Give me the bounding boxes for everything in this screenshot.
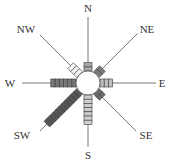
bar-segment xyxy=(84,108,92,112)
bar-segment xyxy=(51,79,55,87)
bar-segment xyxy=(68,79,72,87)
direction-line-ne xyxy=(96,34,137,75)
bar-segment xyxy=(104,79,108,87)
label-se: SE xyxy=(140,129,153,141)
bar-e xyxy=(100,79,113,87)
bar-w xyxy=(51,79,76,87)
bar-segment xyxy=(84,116,92,120)
center-circle xyxy=(76,71,100,95)
bar-segment xyxy=(108,79,112,87)
bar-segment xyxy=(84,63,92,67)
label-nw: NW xyxy=(17,23,36,35)
bar-segment xyxy=(84,95,92,99)
bar-n xyxy=(84,63,92,71)
bar-segment xyxy=(84,112,92,116)
label-n: N xyxy=(84,2,92,14)
bar-segment xyxy=(84,120,92,124)
bar-s xyxy=(84,95,92,124)
label-w: W xyxy=(5,77,16,89)
bar-sw xyxy=(44,89,82,127)
bar-segment xyxy=(100,79,104,87)
bar-segment xyxy=(55,79,59,87)
label-sw: SW xyxy=(14,129,31,141)
bar-segment xyxy=(59,79,63,87)
label-ne: NE xyxy=(140,23,155,35)
bar-segment xyxy=(84,67,92,71)
wind-rose-diagram: NNEESESSWWNW xyxy=(0,0,169,164)
bar-segment xyxy=(84,103,92,107)
label-s: S xyxy=(85,149,91,161)
label-e: E xyxy=(159,77,166,89)
direction-bars xyxy=(44,63,113,127)
bar-segment xyxy=(63,79,67,87)
bar-segment xyxy=(72,79,76,87)
bar-segment xyxy=(84,99,92,103)
